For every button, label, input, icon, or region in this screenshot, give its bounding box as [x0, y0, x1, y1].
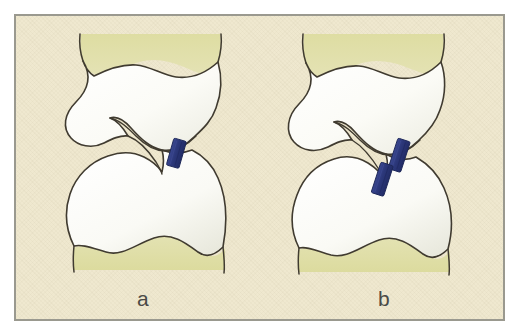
panel-label-b: b [378, 288, 390, 309]
panel-a-lower-shaft-left [73, 246, 74, 272]
anatomical-illustration [16, 16, 505, 321]
panel-a-graphic [65, 34, 225, 273]
panel-b-graphic [288, 34, 451, 275]
figure-frame: a b [14, 14, 505, 321]
panel-b-lower-bone [292, 154, 451, 257]
panel-label-a: a [137, 288, 149, 309]
panel-b-upper-bone [288, 62, 444, 154]
panel-a-upper-bone [65, 61, 220, 150]
figure-root: a b [0, 0, 519, 335]
panel-a-lower-bone [67, 150, 226, 255]
panel-b-lower-shaft-left [298, 248, 299, 274]
